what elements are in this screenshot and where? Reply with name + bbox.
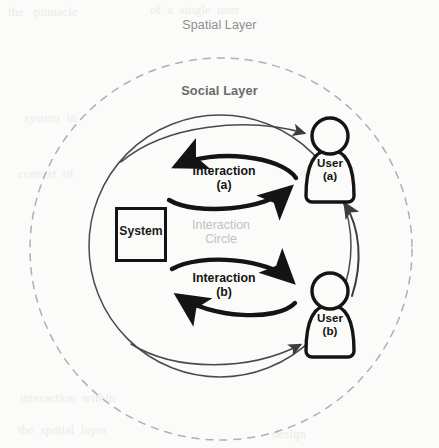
social-arc-to-user-b bbox=[131, 344, 300, 365]
user-b-label: User (b) bbox=[304, 311, 356, 337]
user-a-head bbox=[312, 118, 348, 154]
system-label: System bbox=[116, 225, 166, 239]
diagram-page: the pinnacle of a single user system in … bbox=[0, 0, 439, 448]
interaction-circle-label: Interaction Circle bbox=[170, 219, 272, 247]
user-b-head bbox=[312, 273, 348, 309]
social-layer-label: Social Layer bbox=[0, 84, 439, 98]
spatial-layer-label: Spatial Layer bbox=[0, 18, 439, 32]
user-a-label: User (a) bbox=[304, 156, 356, 182]
interaction-b-label: Interaction (b) bbox=[168, 272, 280, 300]
interaction-a-label: Interaction (a) bbox=[168, 165, 280, 193]
